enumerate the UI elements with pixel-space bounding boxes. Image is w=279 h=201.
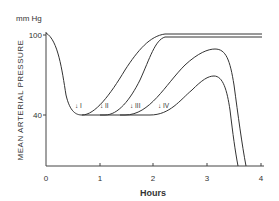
series-line-IV: [120, 76, 238, 166]
y-unit-label: mm Hg: [16, 14, 42, 23]
annotation-II: ↓ II: [100, 102, 109, 109]
y-tick-label-100: 100: [29, 31, 43, 40]
annotation-I: ↓ I: [75, 102, 82, 109]
x-tick-label-2: 2: [151, 174, 156, 183]
y-axis-label: MEAN ARTERIAL PRESSURE: [16, 40, 25, 161]
x-tick-label-3: 3: [205, 174, 210, 183]
annotation-III: ↓ III: [130, 102, 141, 109]
x-tick-label-1: 1: [98, 174, 103, 183]
x-tick-label-4: 4: [259, 174, 264, 183]
y-tick-label-40: 40: [33, 111, 42, 120]
chart: 100 40 0 1 2 3 4 mm Hg MEAN ARTERIAL PRE…: [0, 0, 279, 201]
x-axis-label: Hours: [140, 188, 166, 198]
annotation-IV: ↓ IV: [158, 102, 170, 109]
series-line-II: [82, 37, 262, 115]
x-tick-label-0: 0: [44, 174, 49, 183]
